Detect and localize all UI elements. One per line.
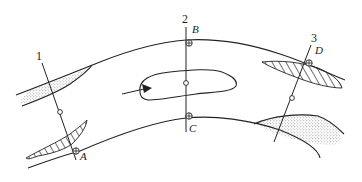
- midpoint-marker-2: [184, 81, 189, 86]
- point-label-a: A: [79, 150, 87, 162]
- point-label-d: D: [314, 44, 323, 56]
- point-label-c: C: [189, 122, 197, 134]
- point-label-b: B: [192, 23, 199, 35]
- channel-bend-diagram: 1 2 3 A B C D: [0, 0, 362, 182]
- point-d-marker-icon: [306, 60, 312, 66]
- dotted-deposit-lower-right: [256, 115, 341, 144]
- hatched-erosion-upper-right: [262, 61, 342, 88]
- midpoint-marker-3: [290, 96, 295, 101]
- dotted-deposit-upper-left: [20, 66, 92, 104]
- section-label-3: 3: [311, 31, 317, 45]
- flow-arrow-head-icon: [142, 84, 152, 93]
- point-c-marker-icon: [186, 113, 192, 119]
- point-b-marker-icon: [186, 40, 192, 46]
- midpoint-marker-1: [58, 110, 63, 115]
- section-label-2: 2: [182, 12, 188, 26]
- section-label-1: 1: [36, 49, 42, 63]
- point-a-marker-icon: [73, 148, 79, 154]
- flow-arrow-shaft: [122, 89, 144, 94]
